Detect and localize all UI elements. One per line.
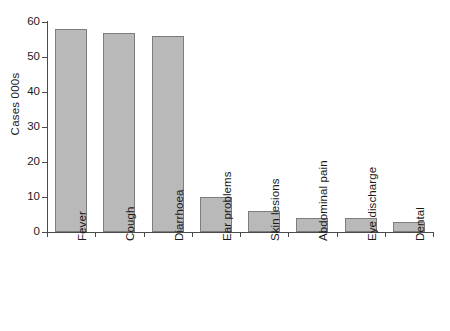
y-tick-label: 0 (0, 226, 40, 238)
x-tick-mark (240, 232, 241, 237)
x-tick-mark (95, 232, 96, 237)
y-axis-title: Cases 000s (9, 59, 21, 149)
y-tick-label: 20 (0, 156, 40, 168)
x-tick-mark (47, 232, 48, 237)
bar-chart: Cases 000s 0102030405060 FeverCoughDiarr… (0, 0, 450, 331)
bar (55, 29, 87, 232)
y-tick-label: 40 (0, 86, 40, 98)
x-category-label: Eye discharge (366, 167, 378, 241)
x-category-label: Skin lesions (269, 178, 281, 241)
x-tick-mark (144, 232, 145, 237)
y-tick-label: 30 (0, 121, 40, 133)
x-category-label: Dental (414, 207, 426, 241)
y-tick-mark (42, 162, 48, 163)
y-tick-label: 60 (0, 16, 40, 28)
x-tick-mark (288, 232, 289, 237)
x-tick-mark (192, 232, 193, 237)
x-category-label: Ear problems (221, 171, 233, 241)
y-tick-mark (42, 22, 48, 23)
y-tick-mark (42, 92, 48, 93)
y-tick-mark (42, 127, 48, 128)
x-category-label: Cough (124, 207, 136, 241)
y-tick-label: 10 (0, 191, 40, 203)
x-category-label: Fever (76, 211, 88, 241)
y-tick-mark (42, 57, 48, 58)
x-tick-mark (337, 232, 338, 237)
x-category-label: Abdominal pain (317, 160, 329, 241)
x-tick-mark (385, 232, 386, 237)
y-tick-mark (42, 197, 48, 198)
bar (103, 33, 135, 233)
x-category-label: Diarrhoea (173, 190, 185, 241)
y-tick-label: 50 (0, 51, 40, 63)
x-tick-mark (433, 232, 434, 237)
